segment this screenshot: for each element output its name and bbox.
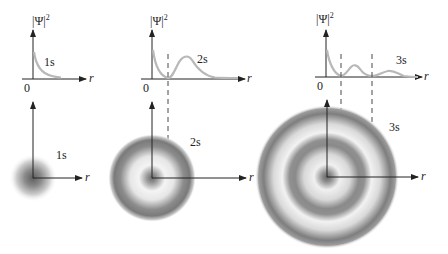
cloud-3s: r 3s	[255, 100, 426, 249]
probability-curve-2s	[153, 50, 238, 78]
y-axis-label: |Ψ|2	[150, 13, 168, 28]
orbital-diagram: |Ψ|2 r 0 1s r 1s |Ψ|2 r 0 2s r	[0, 0, 448, 254]
cloud-r-label: r	[85, 170, 90, 184]
x-axis-label: r	[247, 71, 252, 85]
cloud-1s: r 1s	[9, 102, 90, 202]
x-axis-label: r	[424, 69, 429, 83]
origin-label: 0	[317, 79, 323, 93]
panel-2s: |Ψ|2 r 0 2s r 2s	[108, 13, 254, 222]
panel-1s: |Ψ|2 r 0 1s r 1s	[9, 13, 94, 202]
curve-label-3s: 3s	[396, 53, 407, 67]
cloud-2s: r 2s	[108, 102, 254, 222]
x-axis-label: r	[89, 71, 94, 85]
cloud-label-1s: 1s	[56, 148, 67, 162]
cloud-label-2s: 2s	[190, 135, 201, 149]
panel-3s: |Ψ|2 r 0 3s r 3s	[255, 11, 429, 249]
curve-label-2s: 2s	[197, 52, 208, 66]
curve-label-1s: 1s	[44, 55, 55, 69]
cloud-r-label: r	[249, 170, 254, 184]
origin-label: 0	[24, 81, 30, 95]
origin-label: 0	[143, 81, 149, 95]
y-axis-label: |Ψ|2	[32, 13, 50, 28]
cloud-label-3s: 3s	[389, 120, 400, 134]
y-axis-label: |Ψ|2	[316, 11, 334, 26]
graph-1s: |Ψ|2 r 0 1s	[22, 13, 94, 95]
cloud-r-label: r	[421, 169, 426, 183]
